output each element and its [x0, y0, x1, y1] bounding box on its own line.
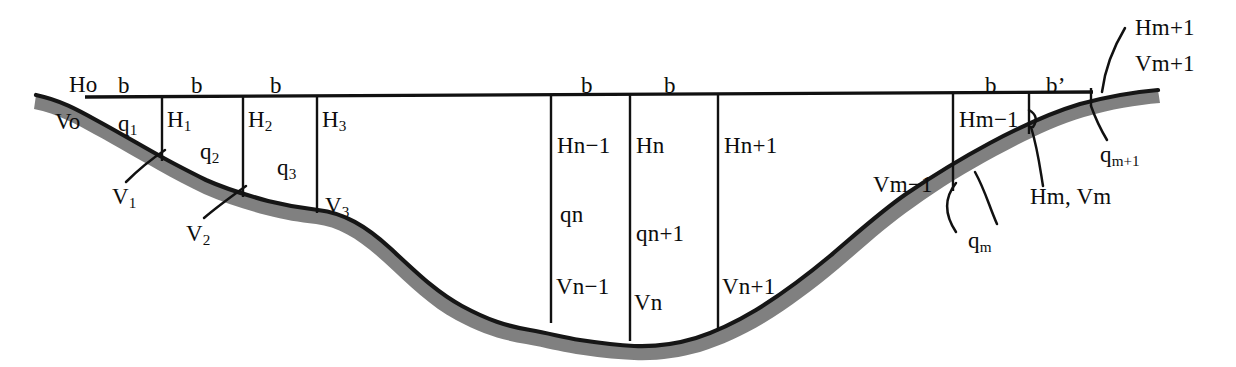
- depth-label-h1-sub: 1: [184, 117, 192, 134]
- velocity-label-v2-sub: 2: [203, 231, 211, 248]
- discharge-label-qm-plus-1: qm+1: [1100, 143, 1140, 168]
- velocity-label-vm-minus-1: Vm−1: [873, 173, 933, 196]
- depth-label-hn: Hn: [636, 134, 665, 157]
- width-label-b-1: b: [118, 74, 130, 97]
- velocity-label-vn-minus-1: Vn−1: [556, 275, 609, 298]
- velocity-label-v1-sub: 1: [129, 194, 137, 211]
- discharge-label-q3-sub: 3: [289, 165, 297, 182]
- stream-cross-section-diagram: b b b b b b b’ Ho H1 H2 H3 Hn−1 Hn Hn+1 …: [0, 0, 1236, 367]
- width-label-b-prime: b’: [1046, 74, 1066, 97]
- discharge-label-q1: q1: [118, 112, 137, 137]
- discharge-label-q3: q3: [277, 156, 296, 181]
- width-label-b-5: b: [664, 74, 676, 97]
- depth-label-hn-plus-1: Hn+1: [724, 134, 777, 157]
- discharge-label-q2-sub: 2: [212, 149, 220, 166]
- discharge-label-qm: qm: [968, 229, 992, 254]
- depth-label-h2-sub: 2: [265, 117, 273, 134]
- depth-label-h2: H2: [248, 108, 272, 133]
- depth-label-h1: H1: [167, 108, 191, 133]
- leader-qm: [975, 172, 997, 224]
- leader-hm-vm: [1031, 127, 1043, 186]
- velocity-label-vo: Vo: [55, 110, 81, 133]
- discharge-label-qm-sub: m: [980, 238, 992, 255]
- combined-label-hm-vm: Hm, Vm: [1030, 185, 1111, 208]
- depth-label-h3: H3: [322, 108, 346, 133]
- depth-label-hm-minus-1: Hm−1: [959, 108, 1019, 131]
- discharge-label-qn-plus-1: qn+1: [636, 222, 684, 245]
- depth-label-ho: Ho: [69, 73, 98, 96]
- depth-label-h3-sub: 3: [339, 117, 347, 134]
- discharge-label-qn: qn: [560, 203, 583, 226]
- velocity-label-v3-sub: 3: [342, 203, 350, 220]
- discharge-label-q1-sub: 1: [130, 121, 138, 138]
- velocity-label-vn-plus-1: Vn+1: [722, 275, 775, 298]
- velocity-label-v2: V2: [186, 222, 210, 247]
- depth-label-hm-plus-1: Hm+1: [1135, 16, 1195, 39]
- velocity-label-v3: V3: [325, 194, 349, 219]
- depth-label-hn-minus-1: Hn−1: [557, 134, 610, 157]
- leader-hm1-vm1: [1102, 28, 1125, 92]
- width-label-b-3: b: [270, 74, 282, 97]
- velocity-label-vn: Vn: [634, 291, 663, 314]
- leader-hn-1-bracket: [947, 183, 956, 232]
- width-label-b-6: b: [985, 74, 997, 97]
- velocity-label-v1: V1: [112, 185, 136, 210]
- velocity-label-vm-plus-1: Vm+1: [1135, 52, 1195, 75]
- discharge-label-qm-plus-1-sub: m+1: [1112, 152, 1140, 169]
- width-label-b-4: b: [581, 74, 593, 97]
- width-label-b-2: b: [191, 74, 203, 97]
- discharge-label-q2: q2: [200, 140, 219, 165]
